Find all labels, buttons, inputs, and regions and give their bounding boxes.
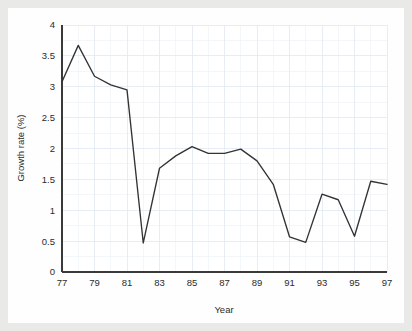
y-tick-label: 1 xyxy=(50,205,55,216)
y-tick-label: 0.5 xyxy=(42,236,55,247)
x-tick-label: 87 xyxy=(219,277,230,288)
y-tick-label: 0 xyxy=(50,266,55,277)
x-tick-label: 77 xyxy=(57,277,68,288)
y-tick-label: 1.5 xyxy=(42,174,55,185)
x-tick-label: 89 xyxy=(252,277,263,288)
x-axis-tick-labels: 7779818385878991939597 xyxy=(57,277,393,288)
line-chart: 00.511.522.533.54 7779818385878991939597… xyxy=(0,0,412,331)
x-tick-label: 85 xyxy=(187,277,198,288)
y-axis-title: Growth rate (%) xyxy=(15,114,26,181)
x-axis-title: Year xyxy=(214,304,233,315)
y-tick-label: 3.5 xyxy=(42,50,55,61)
x-tick-label: 93 xyxy=(317,277,328,288)
x-tick-label: 97 xyxy=(382,277,393,288)
chart-figure: 00.511.522.533.54 7779818385878991939597… xyxy=(0,0,412,331)
y-tick-label: 2 xyxy=(50,143,55,154)
x-tick-label: 79 xyxy=(89,277,100,288)
x-tick-label: 83 xyxy=(154,277,165,288)
y-tick-label: 3 xyxy=(50,81,55,92)
y-tick-label: 2.5 xyxy=(42,112,55,123)
x-tick-label: 81 xyxy=(122,277,133,288)
y-tick-label: 4 xyxy=(50,19,55,30)
x-tick-label: 95 xyxy=(349,277,360,288)
y-axis-tick-labels: 00.511.522.533.54 xyxy=(42,19,55,277)
x-tick-label: 91 xyxy=(284,277,295,288)
